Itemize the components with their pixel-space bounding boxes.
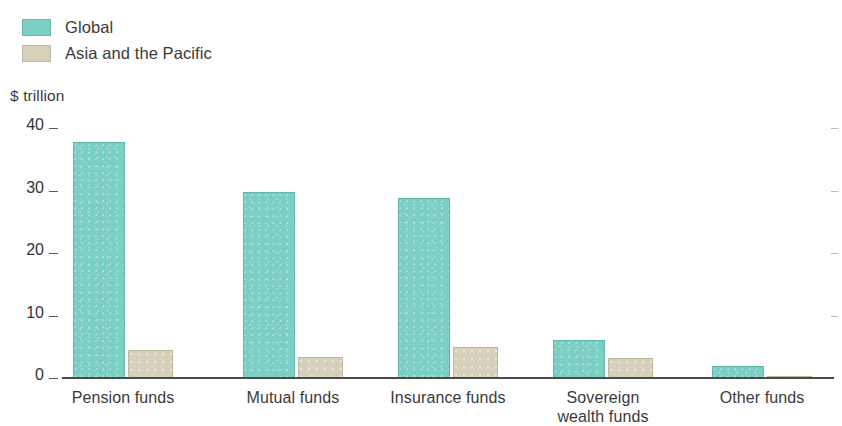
x-axis-baseline [62, 377, 834, 379]
bar-asia-pacific-pension-funds [128, 350, 173, 378]
category-label-other-funds-line1: Other funds [692, 388, 832, 407]
category-label-pension-funds: Pension funds [53, 388, 193, 407]
y-tick-label-40: 40 [26, 117, 44, 133]
bar-global-insurance-funds [398, 198, 450, 378]
category-label-insurance-funds-line1: Insurance funds [378, 388, 518, 407]
y-tick-30: 30 [0, 191, 62, 192]
y-tick-label-10: 10 [26, 305, 44, 321]
category-label-pension-funds-line1: Pension funds [53, 388, 193, 407]
y-tick-label-30: 30 [26, 180, 44, 196]
y-tick-dash-30 [49, 191, 58, 192]
y-tick-right-30 [831, 191, 838, 192]
y-tick-10: 10 [0, 316, 62, 317]
y-tick-20: 20 [0, 253, 62, 254]
category-label-mutual-funds: Mutual funds [223, 388, 363, 407]
bar-global-sovereign-wealth-funds [553, 340, 605, 378]
category-label-sovereign-wealth-funds-line2: wealth funds [533, 407, 673, 426]
y-tick-right-20 [831, 253, 838, 254]
y-tick-0: 0 [0, 378, 62, 379]
bar-global-mutual-funds [243, 192, 295, 378]
y-tick-dash-20 [49, 253, 58, 254]
category-label-mutual-funds-line1: Mutual funds [223, 388, 363, 407]
y-tick-dash-0 [49, 378, 58, 379]
bar-asia-pacific-mutual-funds [298, 357, 343, 378]
bar-asia-pacific-sovereign-wealth-funds [608, 358, 653, 378]
y-tick-label-0: 0 [35, 367, 44, 383]
bar-chart: Global Asia and the Pacific $ trillion 0… [0, 0, 842, 426]
bar-asia-pacific-insurance-funds [453, 347, 498, 378]
y-tick-dash-40 [49, 128, 58, 129]
category-label-insurance-funds: Insurance funds [378, 388, 518, 407]
y-tick-40: 40 [0, 128, 62, 129]
y-tick-right-40 [831, 128, 838, 129]
y-tick-dash-10 [49, 316, 58, 317]
category-label-other-funds: Other funds [692, 388, 832, 407]
y-tick-label-20: 20 [26, 242, 44, 258]
bar-global-pension-funds [73, 142, 125, 378]
plot-area: 0 10 20 30 40 [0, 0, 842, 426]
category-label-sovereign-wealth-funds-line1: Sovereign [533, 388, 673, 407]
category-label-sovereign-wealth-funds: Sovereign wealth funds [533, 388, 673, 426]
y-tick-right-10 [831, 316, 838, 317]
